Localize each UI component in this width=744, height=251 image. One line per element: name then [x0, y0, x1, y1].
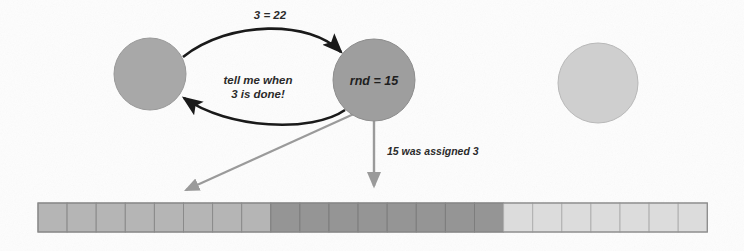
callback-edge-label-line1: tell me when: [223, 74, 292, 86]
assignment-edge-label: 15 was assigned 3: [387, 145, 479, 157]
array-cell[interactable]: [154, 203, 183, 232]
array-cell[interactable]: [678, 203, 707, 232]
array-cell[interactable]: [213, 203, 242, 232]
array-cell[interactable]: [416, 203, 445, 232]
array-cell[interactable]: [504, 203, 533, 232]
array-cell[interactable]: [591, 203, 620, 232]
array-cell[interactable]: [620, 203, 649, 232]
array-cell[interactable]: [445, 203, 474, 232]
array-cell[interactable]: [271, 203, 300, 232]
array-cell[interactable]: [649, 203, 678, 232]
memory-array-bar[interactable]: [38, 203, 707, 232]
array-cell[interactable]: [300, 203, 329, 232]
request-edge-label: 3 = 22: [254, 9, 287, 21]
node-rnd-label: rnd = 15: [350, 74, 399, 88]
array-cell[interactable]: [96, 203, 125, 232]
array-cell[interactable]: [242, 203, 271, 232]
array-cell[interactable]: [533, 203, 562, 232]
array-cell[interactable]: [67, 203, 96, 232]
array-cell[interactable]: [329, 203, 358, 232]
node-idle-peer[interactable]: [558, 43, 638, 123]
array-cell[interactable]: [475, 203, 504, 232]
array-cell[interactable]: [562, 203, 591, 232]
array-cell[interactable]: [358, 203, 387, 232]
array-cell[interactable]: [184, 203, 213, 232]
diagram-canvas: rnd = 15 3 = 22 tell me when 3 is done! …: [0, 0, 744, 251]
callback-edge-label-line2: 3 is done!: [231, 88, 285, 100]
node-rnd[interactable]: rnd = 15: [333, 39, 415, 121]
node-left-peer[interactable]: [114, 38, 186, 110]
array-cell[interactable]: [387, 203, 416, 232]
array-cell[interactable]: [38, 203, 67, 232]
array-cell[interactable]: [125, 203, 154, 232]
